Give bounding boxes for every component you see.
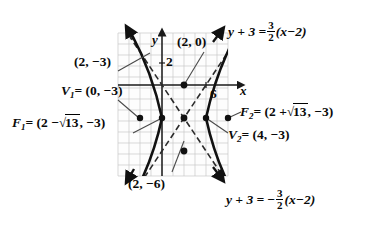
eq-pos-rhs: (x−2) — [276, 25, 307, 39]
focus-1-open: = (2 − — [26, 115, 59, 130]
sqrt-icon-focus-1: √13 — [59, 116, 80, 130]
y-axis-tick-label: 2 — [166, 55, 173, 69]
vertex-2-value: = (4, −3) — [242, 127, 290, 142]
point-center — [181, 115, 188, 122]
point-V1 — [159, 115, 165, 121]
label-center-point: (2, −3) — [74, 55, 111, 69]
point-covertex-bottom — [181, 148, 188, 155]
eq-neg-denominator: 2 — [276, 199, 284, 211]
focus-1-symbol: F — [12, 115, 21, 130]
eq-pos-denominator: 2 — [267, 31, 275, 43]
focus-2-symbol: F — [240, 104, 249, 119]
point-V2 — [203, 115, 209, 121]
label-focus-2: F2= (2 +√13, −3) — [240, 105, 333, 121]
focus-2-close: , −3) — [308, 104, 334, 119]
vertex-1-symbol: V — [61, 83, 70, 98]
eq-pos-numerator: 3 — [267, 20, 275, 31]
label-covertex-bottom: (2, −6) — [128, 177, 165, 191]
label-vertex-2: V2= (4, −3) — [228, 128, 290, 144]
point-F1 — [137, 115, 143, 121]
focus-1-close: , −3) — [80, 115, 106, 130]
equation-asymptote-positive: y + 3 = 3 2 (x−2) — [228, 20, 306, 43]
eq-neg-lhs: y + 3 = — [226, 193, 264, 207]
equation-asymptote-negative: y + 3 = − 3 2 (x−2) — [226, 188, 315, 211]
eq-neg-fraction: 3 2 — [276, 188, 284, 211]
focus-2-open: = (2 + — [254, 104, 287, 119]
eq-neg-sign: − — [267, 193, 275, 207]
point-covertex-top — [181, 82, 188, 89]
label-focus-1: F1= (2 −√13, −3) — [12, 116, 105, 132]
eq-pos-fraction: 3 2 — [267, 20, 275, 43]
grid — [118, 33, 228, 176]
eq-neg-numerator: 3 — [276, 188, 284, 199]
focus-2-radicand: 13 — [293, 103, 308, 119]
sqrt-icon-focus-2: √13 — [287, 105, 308, 119]
focus-1-radicand: 13 — [65, 114, 80, 130]
x-axis-label: x — [240, 84, 247, 97]
label-covertex-top: (2, 0) — [177, 35, 206, 49]
x-axis-tick-label: 6 — [210, 87, 217, 101]
point-F2 — [225, 115, 231, 121]
eq-neg-rhs: (x−2) — [284, 193, 315, 207]
eq-pos-lhs: y + 3 = — [228, 25, 266, 39]
y-axis-label: y — [152, 33, 158, 46]
vertex-1-value: = (0, −3) — [75, 83, 123, 98]
vertex-2-symbol: V — [228, 127, 237, 142]
label-vertex-1: V1= (0, −3) — [61, 84, 123, 100]
